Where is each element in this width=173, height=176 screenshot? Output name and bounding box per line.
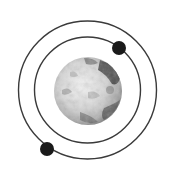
diagram-canvas: [0, 0, 173, 176]
outer-moon: [40, 142, 54, 156]
planet: [54, 57, 122, 125]
inner-moon: [112, 41, 126, 55]
planet-orbit-diagram: [0, 0, 173, 176]
